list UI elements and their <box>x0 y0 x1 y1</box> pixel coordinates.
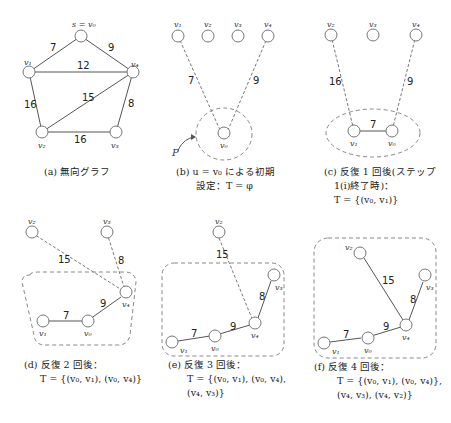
node-v2 <box>354 247 366 259</box>
caption-e-line2: T = {(v₀, v₁), (v₀, v₄), <box>187 373 286 384</box>
node-label-v4: v₄ <box>122 300 130 309</box>
set-p-label: P <box>171 147 179 158</box>
caption-a: (a) 無向グラフ <box>44 166 110 177</box>
weight-v0v1: 7 <box>63 310 69 321</box>
node-label-v2: v₂ <box>327 20 335 29</box>
node-label-v4: v₄ <box>131 60 139 69</box>
weight-v1v4: 12 <box>77 60 90 71</box>
caption-c-line1: (c) 反復 1 回後(ステップ <box>324 166 436 177</box>
caption-f-line2: T = {(v₀, v₁), (v₀, v₄)}, <box>337 375 442 386</box>
node-label-v3: v₃ <box>369 20 377 29</box>
node-v1 <box>318 337 330 349</box>
panel-e-iteration-3: v₂ v₃ v₄ v₁ v₀ 15 8 9 7 (e) 反復 3 回後： T =… <box>162 217 286 398</box>
caption-c-line2: 1(i)終了時)： <box>334 180 394 191</box>
set-p-boundary <box>326 109 420 157</box>
weight-v3v4: 8 <box>128 98 134 109</box>
node-v1 <box>172 30 184 42</box>
node-v4 <box>120 286 132 298</box>
caption-c-line3: T = {(v₀, v₁)} <box>334 194 398 205</box>
node-v1 <box>166 336 178 348</box>
node-label-v4: v₄ <box>251 331 259 340</box>
node-label-v2: v₂ <box>345 243 353 252</box>
weight-v0v1: 7 <box>50 42 56 53</box>
weight-v2v4: 15 <box>382 275 395 286</box>
node-label-v2: v₂ <box>28 217 36 226</box>
node-label-v1: v₁ <box>39 329 47 338</box>
node-v3 <box>110 126 122 138</box>
node-label-v1: v₁ <box>332 347 340 356</box>
weight-v0v1: 7 <box>188 75 194 86</box>
node-v2 <box>325 29 337 41</box>
node-v3 <box>268 269 280 281</box>
weight-v0v4: 9 <box>100 298 106 309</box>
node-v2 <box>213 226 225 238</box>
node-label-v3: v₃ <box>103 217 111 226</box>
node-label-v4: v₄ <box>264 20 272 29</box>
weight-v0v4: 9 <box>383 321 389 332</box>
node-label-v2: v₂ <box>204 20 212 29</box>
node-v1 <box>37 315 49 327</box>
panel-b-initial-setup: v₁ v₂ v₃ v₄ v₀ 7 9 P (b) u = v₀ による初期 設定… <box>171 20 275 191</box>
node-label-v0: v₀ <box>211 344 220 353</box>
node-label-v4: v₄ <box>402 333 410 342</box>
set-p-boundary <box>162 263 284 356</box>
weight-v2v3: 16 <box>74 134 87 145</box>
caption-f-line3: (v₄, v₃), (v₄, v₂)} <box>337 389 413 400</box>
weight-v3v4: 8 <box>259 291 265 302</box>
node-v4 <box>249 317 261 329</box>
node-v4 <box>410 29 422 41</box>
node-v0 <box>386 125 398 137</box>
prim-algorithm-diagram: s = v₀ v₁ v₄ v₂ v₃ 7 9 12 15 16 16 8 (a)… <box>0 0 451 423</box>
weight-v3v4: 8 <box>118 255 124 266</box>
weight-v0v4: 9 <box>407 76 413 87</box>
weight-v0v4: 9 <box>108 42 114 53</box>
caption-e-line1: (e) 反復 3 回後： <box>168 359 246 370</box>
panel-a-undirected-graph: s = v₀ v₁ v₄ v₂ v₃ 7 9 12 15 16 16 8 (a)… <box>23 20 139 177</box>
node-v4 <box>262 30 274 42</box>
node-label-v0: v₀ <box>388 139 397 148</box>
caption-e-line3: (v₄, v₃)} <box>187 387 225 398</box>
node-label-v1: v₁ <box>174 20 182 29</box>
node-v1 <box>23 66 35 78</box>
panel-d-iteration-2: v₂ v₃ v₄ v₁ v₀ 15 8 9 7 (d) 反復 2 回後： T =… <box>22 217 142 384</box>
node-label-v3: v₃ <box>426 283 434 292</box>
weight-v0v4: 9 <box>253 75 259 86</box>
panel-c-iteration-1: v₂ v₃ v₄ v₁ v₀ 16 9 7 (c) 反復 1 回後(ステップ 1… <box>324 20 436 205</box>
weight-v2v4: 15 <box>58 254 71 265</box>
node-v0 <box>75 30 87 42</box>
weight-v3v4: 8 <box>410 294 416 305</box>
node-label-v2: v₂ <box>215 217 223 226</box>
caption-b-line1: (b) u = v₀ による初期 <box>176 166 275 177</box>
node-label-v0: v₀ <box>220 141 229 150</box>
caption-f-line1: (f) 反復 4 回後： <box>314 361 390 372</box>
panel-f-iteration-4: v₂ v₃ v₄ v₁ v₀ 15 8 9 7 (f) 反復 4 回後： T =… <box>314 238 442 400</box>
node-v3 <box>419 269 431 281</box>
set-p-boundary <box>314 238 436 358</box>
node-v0 <box>82 315 94 327</box>
node-v3 <box>232 30 244 42</box>
node-v3 <box>367 29 379 41</box>
node-label-v1: v₁ <box>350 139 358 148</box>
node-v2 <box>26 226 38 238</box>
node-label-v4: v₄ <box>412 20 420 29</box>
caption-d-line1: (d) 反復 2 回後： <box>24 359 103 370</box>
weight-v2v4: 15 <box>82 92 95 103</box>
weight-v0v1: 7 <box>370 119 376 130</box>
node-label-v3: v₃ <box>275 283 283 292</box>
node-label-v3: v₃ <box>111 141 119 150</box>
caption-d-line2: T = {(v₀, v₁), (v₀, v₄)} <box>40 373 142 384</box>
caption-b-line2: 設定：T = φ <box>196 180 253 191</box>
weight-v2v4: 15 <box>216 249 229 260</box>
weight-v0v4: 9 <box>230 321 236 332</box>
node-label-v2: v₂ <box>38 141 46 150</box>
node-v1 <box>348 125 360 137</box>
node-v4 <box>400 319 412 331</box>
node-label-v3: v₃ <box>234 20 242 29</box>
node-label-v0: s = v₀ <box>72 20 96 29</box>
weight-v0v1: 7 <box>343 329 349 340</box>
node-v0 <box>362 332 374 344</box>
node-v0 <box>218 127 230 139</box>
node-v3 <box>101 226 113 238</box>
weight-v0v1: 7 <box>191 328 197 339</box>
node-label-v1: v₁ <box>180 346 188 355</box>
